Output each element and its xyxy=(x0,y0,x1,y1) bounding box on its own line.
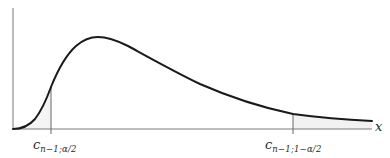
upper-critical-subscript: n−1;1−α/2 xyxy=(272,144,321,154)
lower-critical-subscript: n−1;α/2 xyxy=(40,144,76,154)
x-axis-label: x xyxy=(375,119,382,134)
upper-critical-value-label: cn−1;1−α/2 xyxy=(265,134,322,154)
density-curve xyxy=(13,37,372,129)
lower-critical-value-label: cn−1;α/2 xyxy=(33,134,77,154)
chi-square-density-diagram: x cn−1;α/2 cn−1;1−α/2 xyxy=(0,0,390,158)
